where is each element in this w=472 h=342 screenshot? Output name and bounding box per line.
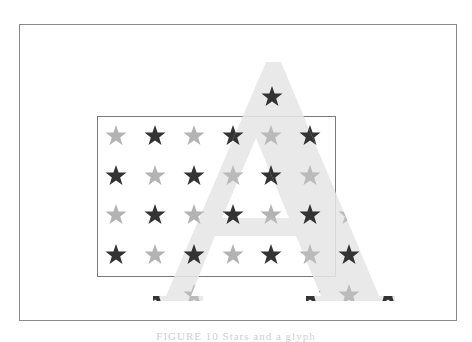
figure-caption: FIGURE 10 Stars and a glyph bbox=[0, 330, 472, 342]
